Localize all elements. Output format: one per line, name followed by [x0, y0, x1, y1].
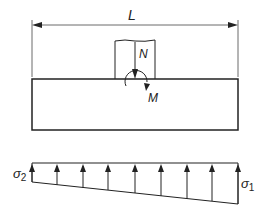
pressure-arrows [29, 164, 241, 204]
footing-diagram: L N M σ2 [0, 0, 263, 220]
pressure-arrow-icon [209, 164, 215, 172]
moment-arrow-icon [144, 83, 150, 91]
moment-label: M [148, 91, 158, 105]
pressure-arrow-icon [184, 164, 190, 172]
axial-force: N [132, 42, 148, 79]
bending-moment: M [125, 70, 158, 105]
soil-pressure-diagram: σ2 σ1 [13, 163, 255, 204]
dimension-arrow-right-icon [228, 22, 238, 28]
pressure-arrow-icon [158, 164, 164, 172]
pressure-arrow-icon [235, 164, 241, 172]
axial-force-label: N [139, 47, 148, 61]
pressure-arrow-icon [105, 164, 111, 172]
pressure-arrow-icon [80, 164, 86, 172]
stress-right-label: σ1 [241, 176, 255, 193]
stress-left-label: σ2 [13, 166, 27, 183]
dimension-arrow-left-icon [32, 22, 42, 28]
footing-block [32, 79, 238, 130]
pressure-arrow-icon [132, 164, 138, 172]
dimension-label: L [128, 7, 136, 23]
pressure-arrow-icon [29, 164, 35, 172]
pressure-arrow-icon [54, 164, 60, 172]
